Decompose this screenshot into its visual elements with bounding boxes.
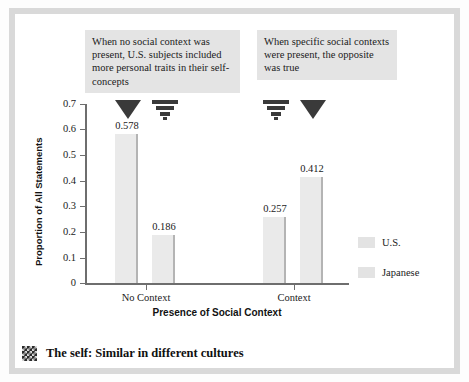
y-tick-label: 0.6 xyxy=(42,123,76,134)
bar-us-no-context xyxy=(115,134,138,283)
bar-value-label-us-context: 0.257 xyxy=(250,203,300,214)
y-tick-label: 0.2 xyxy=(42,226,76,237)
legend-label-us: U.S. xyxy=(382,237,401,248)
x-tick-label-no-context: No Context xyxy=(106,292,186,303)
figure-caption-bar: The self: Similar in different cultures xyxy=(9,338,460,374)
y-tick-mark xyxy=(80,283,85,284)
legend-swatch-us xyxy=(358,237,375,248)
legend-label-japanese: Japanese xyxy=(382,267,419,278)
y-axis-title: Proportion of All Statements xyxy=(33,138,44,266)
pointer-striped-japanese-no-context xyxy=(152,100,178,119)
x-axis-line xyxy=(85,283,349,285)
x-tick-mark xyxy=(146,285,147,290)
chart-panel: When no social context was present, U.S.… xyxy=(22,21,447,316)
bar-us-context xyxy=(263,217,286,283)
bar-value-label-japanese-no-context: 0.186 xyxy=(139,221,189,232)
pointer-solid-japanese-context xyxy=(300,100,326,119)
annotation-callout-no-context: When no social context was present, U.S.… xyxy=(85,30,240,93)
figure-container: When no social context was present, U.S.… xyxy=(0,0,469,382)
y-tick-label: 0.7 xyxy=(42,98,76,109)
bar-value-label-japanese-context: 0.412 xyxy=(287,163,337,174)
y-tick-label: 0.1 xyxy=(42,252,76,263)
y-axis-line xyxy=(85,104,87,284)
y-tick-label: 0 xyxy=(42,277,76,288)
legend-swatch-japanese xyxy=(358,267,375,278)
book-texture-icon xyxy=(22,346,37,361)
y-tick-mark xyxy=(80,181,85,182)
annotation-callout-context: When specific social contexts were prese… xyxy=(257,30,397,80)
y-tick-mark xyxy=(80,104,85,105)
legend-item-japanese: Japanese xyxy=(358,267,419,278)
x-tick-mark xyxy=(294,285,295,290)
y-tick-mark xyxy=(80,155,85,156)
figure-caption-text: The self: Similar in different cultures xyxy=(46,346,244,361)
x-axis-title: Presence of Social Context xyxy=(127,307,307,318)
pointer-solid-us-no-context xyxy=(115,100,141,119)
x-tick-label-context: Context xyxy=(254,292,334,303)
legend-item-us: U.S. xyxy=(358,237,401,248)
bar-japanese-no-context xyxy=(152,235,175,283)
y-tick-label: 0.5 xyxy=(42,149,76,160)
y-tick-label: 0.3 xyxy=(42,200,76,211)
y-tick-label: 0.4 xyxy=(42,175,76,186)
y-tick-mark xyxy=(80,129,85,130)
pointer-striped-us-context xyxy=(263,100,289,119)
y-tick-mark xyxy=(80,232,85,233)
bar-value-label-us-no-context: 0.578 xyxy=(102,120,152,131)
bar-japanese-context xyxy=(300,177,323,283)
y-tick-mark xyxy=(80,258,85,259)
y-tick-mark xyxy=(80,206,85,207)
